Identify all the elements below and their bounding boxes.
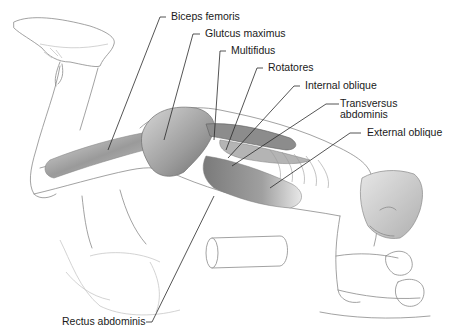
head <box>360 171 422 239</box>
label-gluteus-maximus: Glutcus maximus <box>205 28 286 39</box>
supporting-leg <box>60 240 180 315</box>
label-multifidus: Multifidus <box>231 45 275 56</box>
label-transversus-line2: abdominis <box>340 108 388 120</box>
label-rectus-abdominis: Rectus abdominis <box>62 316 145 327</box>
label-internal-oblique: Internal oblique <box>305 80 377 91</box>
label-rotatores: Rotatores <box>268 62 314 73</box>
label-external-oblique: External oblique <box>367 127 442 138</box>
leader-rectus-abdominis <box>146 196 214 322</box>
anatomy-illustration <box>0 0 454 331</box>
label-biceps-femoris: Biceps femoris <box>171 11 240 22</box>
shoe <box>14 18 114 86</box>
label-transversus-abdominis: Transversus abdominis <box>340 98 397 120</box>
foam-roller <box>206 236 288 268</box>
anatomy-figure: Biceps femoris Glutcus maximus Multifidu… <box>0 0 454 331</box>
